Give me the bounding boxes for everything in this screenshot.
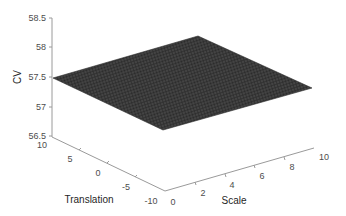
translation-axis-line [52, 137, 165, 191]
cv-axis-label: CV [12, 70, 23, 84]
scale-tick-label: 0 [170, 197, 175, 207]
translation-axis-label: Translation [64, 194, 113, 205]
cv-surface [53, 36, 312, 130]
scale-tick-label: 10 [319, 152, 329, 162]
translation-tick-mark [79, 148, 81, 150]
cv-tick-label: 58 [36, 42, 46, 52]
scale-tick-mark [284, 157, 285, 160]
surface-plot: 58.5 58 57.5 57 56.5 CV 10 5 0 -5 -10 Tr… [0, 0, 346, 216]
scale-tick-label: 4 [229, 180, 234, 190]
scale-tick-label: 2 [200, 188, 205, 198]
scale-axis-label: Scale [221, 195, 246, 206]
translation-tick-mark [107, 161, 109, 163]
translation-tick-label: 0 [95, 168, 100, 178]
cv-tick-label: 57 [36, 102, 46, 112]
translation-tick-mark [135, 175, 137, 177]
translation-tick-label: 10 [37, 140, 47, 150]
scale-tick-label: 6 [259, 171, 264, 181]
cv-tick-label: 58.5 [28, 13, 46, 23]
scale-tick-label: 8 [289, 162, 294, 172]
scale-tick-mark [225, 174, 226, 177]
translation-tick-label: -10 [144, 196, 157, 206]
translation-tick-label: 5 [67, 154, 72, 164]
cv-axis: 58.5 58 57.5 57 56.5 CV [12, 13, 52, 141]
cv-tick-label: 57.5 [28, 72, 46, 82]
translation-axis: 10 5 0 -5 -10 Translation [37, 137, 165, 206]
translation-tick-label: -5 [122, 182, 130, 192]
scale-axis: 0 2 4 6 8 10 Scale [165, 148, 329, 207]
